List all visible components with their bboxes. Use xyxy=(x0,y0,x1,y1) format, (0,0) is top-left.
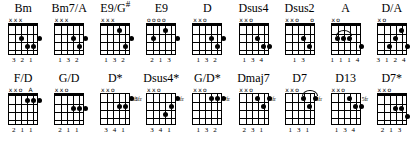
string-markers: xxo··· xyxy=(239,16,269,23)
string-line xyxy=(298,94,299,124)
chord-name: D7* xyxy=(381,72,402,86)
finger-dot xyxy=(399,106,404,111)
finger-dot xyxy=(341,36,346,41)
finger-dot xyxy=(117,28,122,33)
finger-dot xyxy=(255,36,260,41)
string-markers: xxo··· xyxy=(192,86,222,93)
string-markers: xxx··· xyxy=(100,16,130,23)
fretboard-grid xyxy=(146,93,176,125)
fret-line xyxy=(9,120,37,121)
chord-diagram: E9/G#xxx···1 3 2 xyxy=(92,2,138,66)
finger-dot xyxy=(209,96,214,101)
finger-dot xyxy=(221,36,226,41)
fretboard-grid xyxy=(8,23,38,55)
fret-line xyxy=(286,102,314,103)
string-markers: xxo··· xyxy=(192,16,222,23)
fret-line xyxy=(101,110,129,111)
finger-numbers: 1 1 1 4 xyxy=(330,56,360,66)
barre-arc xyxy=(336,30,352,36)
fret-line xyxy=(55,120,83,121)
finger-dot xyxy=(151,36,156,41)
fret-line xyxy=(193,50,221,51)
chord-name: Dmaj7 xyxy=(237,72,270,86)
finger-numbers: 2 3 1 xyxy=(243,126,265,136)
finger-dot xyxy=(209,36,214,41)
fretboard-grid xyxy=(331,93,361,125)
chord-diagram: Dxxo···1 3 2 xyxy=(184,2,230,66)
string-line xyxy=(246,94,247,124)
fret-line xyxy=(286,42,314,43)
finger-numbers: 1 3 2 xyxy=(196,126,218,136)
finger-dot xyxy=(169,104,174,109)
string-line xyxy=(356,94,357,124)
fret-line xyxy=(101,34,129,35)
chord-row-1: Bmxxx···3 2 1Bm7/Axxx···1 3 2E9/G#xxx···… xyxy=(0,2,415,66)
fret-line xyxy=(147,34,175,35)
finger-dot xyxy=(77,44,82,49)
string-markers: xxx··· xyxy=(8,16,38,23)
chord-name: G/D* xyxy=(194,72,221,86)
fretboard-grid xyxy=(192,93,222,125)
string-markers: xxo··· xyxy=(239,86,269,93)
fret-line xyxy=(55,34,83,35)
fret-position-label: 5fr xyxy=(270,96,276,102)
finger-numbers: 1 3 xyxy=(293,56,307,66)
string-line xyxy=(292,94,293,124)
chord-row-2: F/Dxxo·A·2 1 1G/Dxxo···2 1 1D*xxo···5fr3… xyxy=(0,72,415,136)
finger-dot xyxy=(261,44,266,49)
fretboard-grid xyxy=(239,93,269,125)
fret-line xyxy=(55,112,83,113)
fret-position-label: 5fr xyxy=(316,96,322,102)
fretboard-grid xyxy=(8,93,38,125)
finger-numbers: 2 1 1 xyxy=(58,126,80,136)
string-line xyxy=(338,94,339,124)
fret-line xyxy=(378,120,406,121)
finger-numbers: 3 4 1 xyxy=(104,126,126,136)
fretboard-grid xyxy=(100,23,130,55)
finger-dot xyxy=(307,44,312,49)
fretboard-grid xyxy=(285,23,315,55)
chord-diagram: Dsus4xxo···1 3 4 xyxy=(230,2,276,66)
finger-numbers: 1 3 2 xyxy=(104,56,126,66)
string-markers: xxo··· xyxy=(377,86,407,93)
finger-dot xyxy=(307,104,312,109)
fret-line xyxy=(332,118,360,119)
finger-dot xyxy=(123,104,128,109)
fret-line xyxy=(240,118,268,119)
finger-dot xyxy=(405,114,410,119)
chord-diagram: E9oooo··2 1 3 xyxy=(138,2,184,66)
string-markers: xxo··· xyxy=(54,86,84,93)
fret-line xyxy=(240,42,268,43)
string-line xyxy=(171,94,172,124)
chord-name: F/D xyxy=(14,72,33,86)
chord-name: D* xyxy=(108,72,123,86)
string-line xyxy=(119,94,120,124)
chord-name: Dsus4 xyxy=(239,2,269,16)
fretboard-grid xyxy=(285,93,315,125)
fret-line xyxy=(9,34,37,35)
finger-dot xyxy=(117,104,122,109)
finger-dot xyxy=(31,98,36,103)
fret-line xyxy=(286,50,314,51)
chord-name: D13 xyxy=(335,72,356,86)
fretboard-grid xyxy=(54,23,84,55)
finger-dot xyxy=(37,98,42,103)
chord-name: Dsus4* xyxy=(143,72,179,86)
string-line xyxy=(159,94,160,124)
chord-diagram: Dsus2xxo··o1 3 xyxy=(277,2,323,66)
chord-name: A xyxy=(341,2,350,16)
string-markers: oooo·· xyxy=(146,16,176,23)
fret-line xyxy=(193,102,221,103)
finger-numbers: 1 3 4 xyxy=(243,56,265,66)
fret-line xyxy=(240,110,268,111)
chord-diagram: D*xxo···5fr3 4 1 xyxy=(92,72,138,136)
finger-dot xyxy=(405,44,410,49)
chord-name: D/A xyxy=(381,2,402,16)
fret-position-label: 5fr xyxy=(362,96,368,102)
chord-name: D7 xyxy=(292,72,307,86)
fretboard-grid xyxy=(146,23,176,55)
finger-dot xyxy=(347,96,352,101)
finger-dot xyxy=(163,28,168,33)
fret-position-label: 5fr xyxy=(177,96,183,102)
fret-line xyxy=(9,50,37,51)
